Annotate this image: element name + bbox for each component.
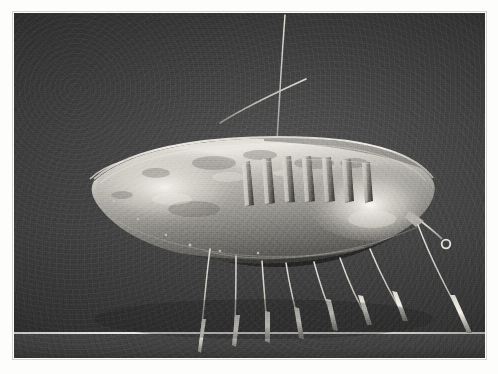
film-grain-coarse xyxy=(14,13,485,358)
screenshot-root xyxy=(0,0,498,374)
photograph xyxy=(14,13,485,358)
image-caption xyxy=(0,0,1,1)
